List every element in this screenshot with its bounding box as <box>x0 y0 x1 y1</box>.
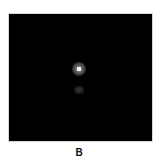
noise-dot <box>69 29 70 30</box>
noise-dot <box>134 124 135 125</box>
fluorescent-spot <box>77 67 81 71</box>
noise-dot <box>119 54 120 55</box>
noise-dot <box>29 44 30 45</box>
noise-dot <box>49 114 50 115</box>
noise-dot <box>109 94 110 95</box>
faint-signal <box>74 86 84 94</box>
panel-label: B <box>0 147 158 158</box>
microscopy-image <box>8 13 153 142</box>
